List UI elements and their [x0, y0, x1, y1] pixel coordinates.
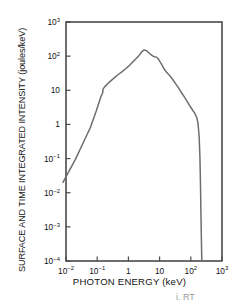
- y-tick-label: 10−2: [44, 188, 60, 198]
- x-axis-title-container: PHOTON ENERGY (keV): [0, 276, 235, 287]
- x-tick-label: 102: [184, 265, 197, 275]
- x-axis-ticks: 10−210−1110102103: [58, 257, 229, 276]
- data-series-group: [63, 50, 202, 261]
- y-tick-label: 103: [47, 17, 60, 27]
- y-tick-label: 102: [47, 51, 60, 61]
- x-tick-label: 10: [155, 266, 165, 276]
- y-tick-label: 1: [55, 119, 60, 129]
- page-artifact-text: i. RT: [176, 292, 234, 300]
- spectrum-curve: [63, 50, 202, 261]
- y-tick-label: 10−3: [44, 222, 61, 232]
- chart-canvas: 10−210−1110102103 10−410−310−210−1110102…: [0, 0, 235, 300]
- x-tick-label: 103: [216, 265, 229, 275]
- y-axis-title: SURFACE AND TIME INTEGRATED INTENSITY (j…: [17, 28, 27, 272]
- x-tick-label: 10−2: [58, 265, 74, 275]
- y-axis-title-container: SURFACE AND TIME INTEGRATED INTENSITY (j…: [0, 0, 26, 275]
- x-tick-label: 1: [126, 266, 131, 276]
- y-tick-label: 10−4: [44, 256, 61, 266]
- figure-panel: SURFACE AND TIME INTEGRATED INTENSITY (j…: [0, 0, 235, 300]
- x-axis-title: PHOTON ENERGY (keV): [73, 276, 186, 287]
- x-tick-label: 10−1: [89, 265, 105, 275]
- y-tick-label: 10−1: [44, 153, 60, 163]
- y-tick-label: 10: [51, 85, 61, 95]
